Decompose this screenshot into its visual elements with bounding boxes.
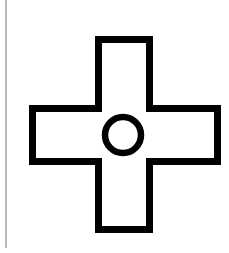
center-circle-icon: [105, 117, 141, 153]
cross-with-circle-icon: [33, 40, 218, 230]
cross-figure: [0, 0, 229, 253]
